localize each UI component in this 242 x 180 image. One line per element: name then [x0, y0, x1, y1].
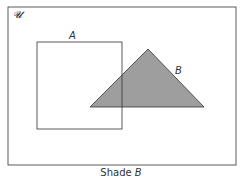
- caption-set: B: [135, 167, 142, 178]
- set-b-triangle[interactable]: [90, 49, 204, 107]
- caption-prefix: Shade: [100, 167, 135, 178]
- universal-set-label: 𝓤: [13, 9, 25, 20]
- set-b-label: B: [175, 65, 182, 76]
- instruction-caption: Shade B: [0, 167, 242, 178]
- set-a-label: A: [68, 30, 76, 41]
- set-a-square[interactable]: [37, 42, 122, 129]
- venn-diagram: 𝓤 A B: [0, 0, 242, 180]
